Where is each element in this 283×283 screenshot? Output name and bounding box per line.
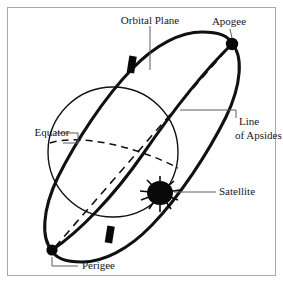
label-satellite: Satellite bbox=[219, 185, 255, 197]
perigee-node-dot bbox=[46, 244, 57, 255]
diagram-canvas: Orbital Plane Apogee Line of Apsides Equ… bbox=[0, 0, 283, 283]
label-orbital-plane: Orbital Plane bbox=[121, 14, 179, 26]
label-apogee: Apogee bbox=[212, 15, 246, 27]
label-perigee: Perigee bbox=[82, 259, 115, 271]
apogee-node-dot bbox=[226, 38, 238, 50]
orbit-diagram-figure: Orbital Plane Apogee Line of Apsides Equ… bbox=[0, 0, 283, 283]
label-line-of-apsides-line1: Line bbox=[239, 115, 259, 127]
label-line-of-apsides-line2: of Apsides bbox=[235, 129, 282, 141]
label-equator: Equator bbox=[35, 126, 70, 138]
